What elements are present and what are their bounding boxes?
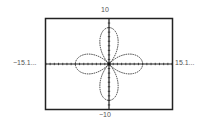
- graph-window: [0, 0, 208, 121]
- origin-point: [107, 62, 111, 66]
